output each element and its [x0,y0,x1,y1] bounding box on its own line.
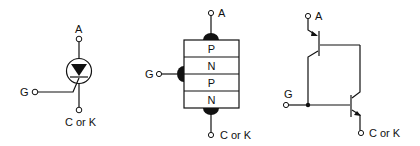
cathode-label: C or K [369,127,401,139]
cathode-terminal [208,132,213,137]
layer-2-label: N [208,60,216,72]
anode-label: A [75,23,83,35]
pnp-emitter-arrow-icon [311,31,318,36]
gate-label: G [284,88,293,100]
gate-label: G [145,68,154,80]
anode-label: A [315,10,323,22]
thyristor-diagrams: A G C or K A P N P N G C or K [0,0,420,146]
two-transistor-model-diagram: A G C or K [283,10,400,139]
diode-triangle-icon [71,64,87,76]
gate-lead [38,78,79,92]
cathode-label: C or K [65,116,97,128]
pnp-collector-lead [308,51,318,105]
gate-contact [177,66,184,82]
layer-4-label: N [208,94,216,106]
thyristor-symbol-diagram: A G C or K [20,23,97,128]
anode-terminal [305,13,310,18]
gate-label: G [20,86,29,98]
layer-3-label: P [208,77,215,89]
anode-terminal [208,10,213,15]
anode-label: A [218,7,226,19]
anode-contact [203,33,219,40]
cathode-label: C or K [220,129,252,141]
gate-terminal [32,89,38,95]
gate-terminal [156,71,161,76]
cathode-terminal [76,107,82,113]
pnpn-layer-diagram: A P N P N G C or K [145,7,252,141]
cathode-contact [203,108,219,115]
npn-collector-lead [352,45,360,98]
gate-terminal [283,102,288,107]
anode-terminal [76,36,82,42]
cathode-terminal [358,130,363,135]
layer-1-label: P [208,43,215,55]
